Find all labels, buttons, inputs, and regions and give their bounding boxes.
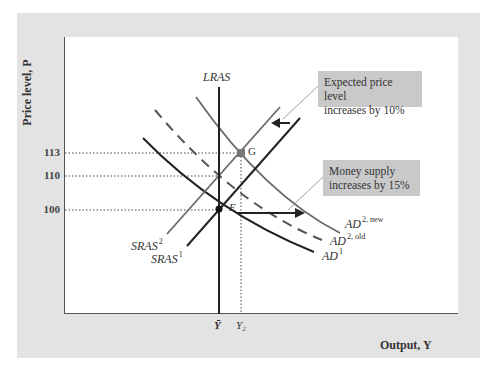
guide-lines bbox=[65, 153, 241, 314]
sras1-label: SRAS1 bbox=[151, 250, 183, 267]
point-g-label: G bbox=[248, 145, 256, 157]
y-axis-label: Price level, P bbox=[17, 40, 37, 150]
ad1-label: AD1 bbox=[322, 247, 343, 264]
ad2-new-label: AD2, new bbox=[345, 215, 383, 232]
callout-expected-price: Expected price level increases by 10% bbox=[318, 71, 422, 107]
left-shift-arrow bbox=[271, 118, 290, 128]
x-tick-ybar: Ȳ bbox=[214, 319, 221, 331]
point-e-marker bbox=[216, 206, 223, 213]
ad1-curve bbox=[143, 138, 314, 252]
callout-money-supply: Money supply increases by 15% bbox=[323, 160, 420, 196]
sras1-curve bbox=[187, 118, 300, 246]
x-axis-label: Output, Y bbox=[380, 338, 432, 353]
lras-label: LRAS bbox=[203, 70, 230, 85]
callout-leader-money bbox=[288, 177, 323, 210]
point-g-marker bbox=[237, 149, 245, 157]
point-e-label: E bbox=[229, 201, 236, 213]
callout-leader-expected bbox=[283, 86, 318, 119]
right-shift-arrow bbox=[237, 208, 305, 218]
y-tick-110: 110 bbox=[24, 169, 60, 181]
y-tick-113: 113 bbox=[24, 146, 60, 158]
y-tick-100: 100 bbox=[24, 203, 60, 215]
x-tick-y2: Y₂ bbox=[236, 319, 246, 331]
sras2-curve bbox=[167, 107, 280, 234]
